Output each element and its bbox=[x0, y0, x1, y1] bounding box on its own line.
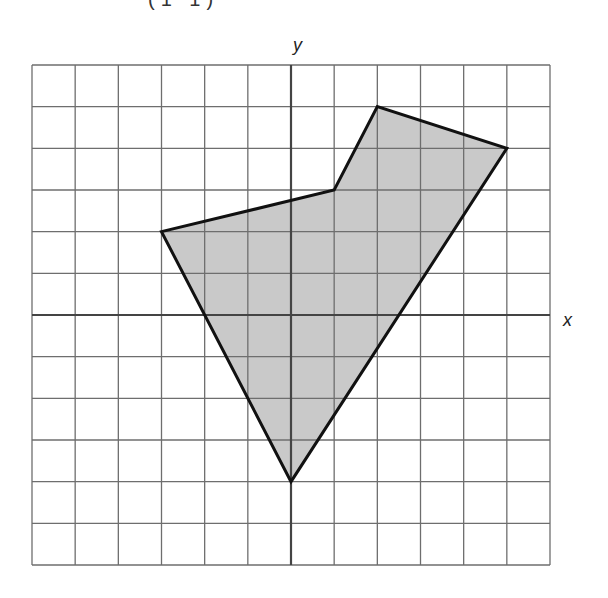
coordinate-grid bbox=[0, 0, 608, 598]
